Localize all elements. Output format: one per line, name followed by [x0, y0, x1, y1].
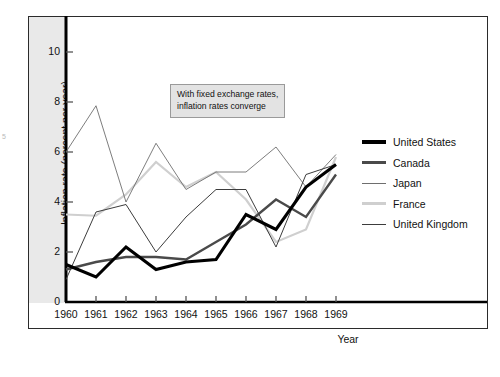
figure-canvas: 5 Inflation rate (percent per year) 0246…	[0, 0, 500, 377]
y-tick-label: 2	[30, 245, 60, 257]
y-axis-title: Inflation rate (percent per year)	[59, 13, 71, 293]
legend-item: United Kingdom	[362, 218, 468, 230]
legend-swatch-icon	[362, 183, 386, 184]
y-tick-label: 4	[30, 195, 60, 207]
legend-item: Japan	[362, 177, 468, 189]
legend-label: Japan	[393, 177, 422, 189]
y-tick-label: 8	[30, 95, 60, 107]
annotation-line-2: inflation rates converge	[177, 101, 278, 113]
legend-swatch-icon	[362, 161, 386, 163]
y-tick-label: 6	[30, 145, 60, 157]
legend-swatch-icon	[362, 202, 386, 204]
chart-legend: United StatesCanadaJapanFranceUnited Kin…	[362, 136, 468, 230]
legend-label: Canada	[393, 157, 430, 169]
y-tick-label: 10	[30, 45, 60, 57]
annotation-box: With fixed exchange rates, inflation rat…	[170, 84, 285, 118]
annotation-line-1: With fixed exchange rates,	[177, 89, 278, 101]
legend-label: United Kingdom	[393, 218, 468, 230]
legend-item: Canada	[362, 157, 468, 169]
legend-item: United States	[362, 136, 468, 148]
legend-item: France	[362, 198, 468, 210]
x-axis-title: Year	[318, 333, 378, 345]
legend-label: France	[393, 198, 426, 210]
legend-swatch-icon	[362, 224, 386, 225]
y-tick-label: 0	[30, 295, 60, 307]
y-axis-label-band: Inflation rate (percent per year)	[29, 17, 66, 303]
legend-swatch-icon	[362, 140, 386, 143]
legend-label: United States	[393, 136, 456, 148]
x-tick-label: 1969	[316, 308, 356, 320]
page-edge-artifact: 5	[2, 133, 6, 140]
